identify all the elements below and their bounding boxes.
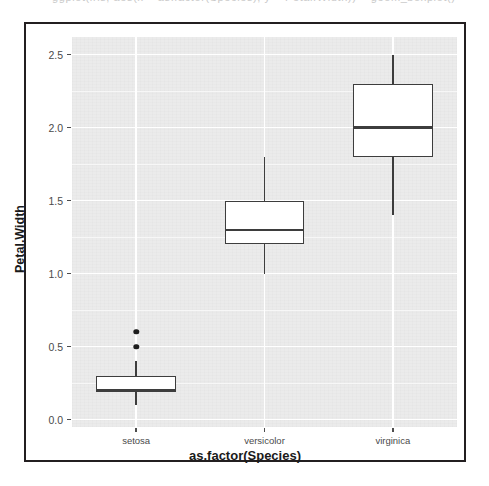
y-axis-tick-label: 1.5 [48,195,63,207]
whisker-upper [392,55,394,84]
x-axis-tick-mark [135,428,137,432]
x-axis-tick-label-setosa: setosa [122,435,150,446]
y-axis-tick-label: 0.5 [48,341,63,353]
boxplot-virginica[interactable] [72,37,457,427]
clipped-text-remnant: ggplot(iris, aes(x = as.factor(Species),… [0,0,489,9]
figure-frame: Petal.Width as.factor(Species) 0.00.51.0… [24,22,466,462]
clipped-text-line: ggplot(iris, aes(x = as.factor(Species),… [52,0,456,3]
y-axis-tick-mark [67,273,71,275]
y-axis-tick-mark [67,419,71,421]
y-axis-tick-mark [67,127,71,129]
y-axis-tick-mark [67,200,71,202]
x-axis-tick-mark [264,428,266,432]
whisker-lower [392,157,394,215]
x-axis-tick-label-virginica: virginica [375,435,410,446]
y-axis-tick-label: 0.0 [48,414,63,426]
chart-panel [72,37,457,427]
y-axis-title: Petal.Width [13,205,27,273]
y-axis-tick-label: 2.5 [48,49,63,61]
plot-area: Petal.Width as.factor(Species) 0.00.51.0… [26,24,464,460]
box-iqr[interactable] [353,84,433,157]
y-axis-tick-mark [67,346,71,348]
x-axis-tick-mark [392,428,394,432]
y-axis-tick-mark [67,54,71,56]
y-axis-tick-label: 2.0 [48,122,63,134]
x-axis-title: as.factor(Species) [26,448,464,463]
x-axis-tick-label-versicolor: versicolor [244,435,285,446]
y-axis-tick-label: 1.0 [48,268,63,280]
median-line [353,126,433,129]
